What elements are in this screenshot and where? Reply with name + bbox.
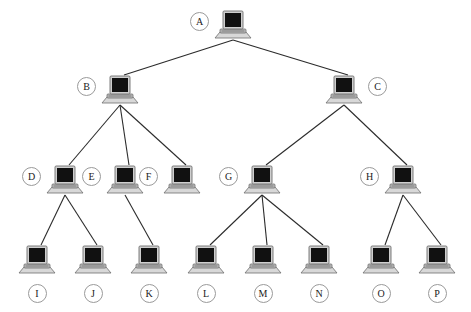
node-label-f: F — [139, 167, 158, 186]
node-label-c: C — [368, 77, 387, 96]
edge-g-m — [262, 195, 267, 245]
node-label-d: D — [22, 167, 41, 186]
laptop-icon — [160, 163, 204, 197]
laptop-icon — [381, 163, 425, 197]
edge-c-g — [266, 105, 344, 165]
edge-b-e — [120, 105, 129, 165]
laptop-icon — [211, 8, 255, 42]
node-j[interactable] — [71, 243, 115, 277]
laptop-icon — [240, 163, 284, 197]
laptop-icon — [98, 73, 142, 107]
laptop-icon-c — [322, 73, 366, 107]
laptop-icon — [184, 243, 228, 277]
edge-b-d — [69, 105, 120, 165]
edge-h-p — [403, 195, 441, 245]
edge-a-b — [124, 40, 233, 75]
node-o[interactable] — [359, 243, 403, 277]
node-label-a: A — [190, 12, 209, 31]
edge-d-i — [41, 195, 65, 245]
edge-g-n — [262, 195, 323, 245]
node-n[interactable] — [297, 243, 341, 277]
node-h[interactable] — [381, 163, 425, 197]
node-g[interactable] — [240, 163, 284, 197]
laptop-icon — [71, 243, 115, 277]
laptop-icon-f — [160, 163, 204, 197]
laptop-icon — [43, 163, 87, 197]
node-label-b: B — [77, 77, 96, 96]
node-p[interactable] — [415, 243, 459, 277]
node-l[interactable] — [184, 243, 228, 277]
laptop-icon-a — [211, 8, 255, 42]
laptop-icon — [359, 243, 403, 277]
node-label-h: H — [360, 167, 379, 186]
laptop-icon — [322, 73, 366, 107]
laptop-icon — [15, 243, 59, 277]
edge-e-k — [125, 195, 153, 245]
node-label-j: J — [84, 284, 103, 303]
edge-a-c — [233, 40, 348, 75]
laptop-icon — [241, 243, 285, 277]
node-i[interactable] — [15, 243, 59, 277]
node-b[interactable] — [98, 73, 142, 107]
node-label-o: O — [372, 284, 391, 303]
node-label-p: P — [428, 284, 447, 303]
laptop-icon-l — [184, 243, 228, 277]
laptop-icon — [127, 243, 171, 277]
node-label-g: G — [219, 167, 238, 186]
laptop-icon-k — [127, 243, 171, 277]
laptop-icon-g — [240, 163, 284, 197]
node-f[interactable] — [160, 163, 204, 197]
edge-c-h — [344, 105, 407, 165]
node-label-l: L — [197, 284, 216, 303]
laptop-icon-h — [381, 163, 425, 197]
edge-h-o — [385, 195, 403, 245]
node-a[interactable] — [211, 8, 255, 42]
laptop-icon-m — [241, 243, 285, 277]
laptop-icon-i — [15, 243, 59, 277]
laptop-icon — [415, 243, 459, 277]
node-label-k: K — [140, 284, 159, 303]
node-c[interactable] — [322, 73, 366, 107]
node-label-i: I — [28, 284, 47, 303]
laptop-icon-d — [43, 163, 87, 197]
node-label-n: N — [310, 284, 329, 303]
network-tree-diagram: ABCDEFGHIJKLMNOP — [0, 0, 471, 312]
laptop-icon-o — [359, 243, 403, 277]
laptop-icon — [297, 243, 341, 277]
node-label-e: E — [82, 167, 101, 186]
node-label-m: M — [254, 284, 273, 303]
laptop-icon-j — [71, 243, 115, 277]
node-k[interactable] — [127, 243, 171, 277]
edge-g-l — [210, 195, 262, 245]
node-d[interactable] — [43, 163, 87, 197]
laptop-icon-n — [297, 243, 341, 277]
edge-b-f — [120, 105, 186, 165]
laptop-icon-p — [415, 243, 459, 277]
laptop-icon-b — [98, 73, 142, 107]
edge-d-j — [65, 195, 97, 245]
node-m[interactable] — [241, 243, 285, 277]
